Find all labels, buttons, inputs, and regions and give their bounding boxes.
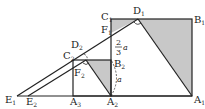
label-c2: C2 — [63, 50, 75, 62]
dashed-arc-d2 — [84, 54, 87, 60]
label-a3: A3 — [69, 96, 81, 108]
label-f1: F1 — [101, 24, 112, 36]
line-e2-d2 — [28, 60, 86, 96]
label-c1: C1 — [101, 11, 112, 23]
label-e2: E2 — [26, 96, 37, 108]
label-a2: A2 — [106, 96, 118, 108]
geometry-diagram: C1 D1 B1 F1 D2 C2 F2 B2 E1 E2 A3 A2 A1 2… — [0, 0, 205, 109]
label-b1: B1 — [194, 14, 205, 26]
label-f2: F2 — [74, 67, 85, 79]
label-a1: A1 — [193, 94, 205, 106]
fraction-denominator: 3 — [116, 48, 121, 57]
label-d2: D2 — [71, 39, 83, 51]
label-b2: B2 — [114, 58, 125, 70]
length-a-label: a — [117, 75, 122, 84]
label-e1: E1 — [5, 94, 16, 106]
label-d1: D1 — [133, 5, 145, 17]
fraction-variable: a — [123, 43, 128, 52]
fraction-numerator: 2 — [116, 38, 121, 47]
